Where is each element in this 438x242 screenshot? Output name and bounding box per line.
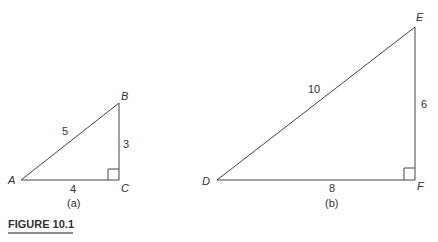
side-ac-length: 4 <box>70 183 76 195</box>
vertex-b: B <box>121 90 128 102</box>
side-df-length: 8 <box>329 182 335 194</box>
vertex-e: E <box>416 11 424 23</box>
vertex-a: A <box>7 174 15 186</box>
figure-canvas: A B C 5 3 4 (a) D E F 10 6 8 (b) FIGURE … <box>0 0 438 242</box>
caption-b: (b) <box>325 197 338 209</box>
caption-a: (a) <box>67 197 80 209</box>
vertex-c: C <box>121 182 129 194</box>
vertex-f: F <box>417 180 425 192</box>
triangle-b-shape <box>217 27 415 180</box>
triangle-b: D E F 10 6 8 (b) <box>202 11 427 209</box>
right-angle-marker-a <box>108 169 119 180</box>
vertex-d: D <box>202 175 210 187</box>
side-ab-length: 5 <box>62 125 68 137</box>
side-de-length: 10 <box>308 83 320 95</box>
triangle-a: A B C 5 3 4 (a) <box>7 90 129 209</box>
right-angle-marker-b <box>404 168 415 180</box>
figure-title: FIGURE 10.1 <box>8 218 74 230</box>
side-ef-length: 6 <box>421 98 427 110</box>
side-bc-length: 3 <box>123 138 129 150</box>
triangle-a-shape <box>21 103 119 180</box>
